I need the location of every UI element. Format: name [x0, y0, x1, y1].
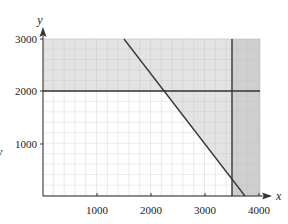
x-tick-2000: 2000	[140, 204, 163, 216]
stray-label: y	[0, 145, 3, 159]
y-axis-label: y	[36, 13, 43, 27]
x-tick-4000: 4000	[248, 204, 271, 216]
y-tick-2000: 2000	[15, 85, 38, 97]
feasible-region-chart: 1000 2000 3000 4000 1000 2000 3000 x y y	[0, 0, 288, 224]
x-tick-1000: 1000	[86, 204, 109, 216]
y-tick-1000: 1000	[15, 138, 38, 150]
x-tick-3000: 3000	[194, 204, 217, 216]
x-axis-label: x	[275, 189, 282, 203]
y-tick-3000: 3000	[15, 33, 38, 45]
